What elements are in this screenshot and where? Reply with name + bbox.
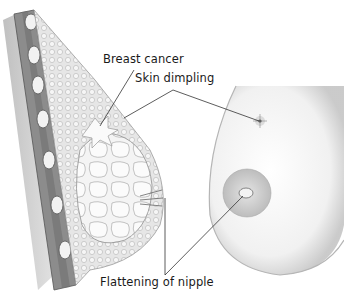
label-flattening-of-nipple: Flattening of nipple <box>100 275 214 289</box>
label-breast-cancer: Breast cancer <box>103 52 184 66</box>
external-breast-view <box>209 86 344 275</box>
label-skin-dimpling: Skin dimpling <box>135 71 214 85</box>
breast-cancer-diagram <box>0 0 344 301</box>
flattened-nipple <box>239 188 253 198</box>
